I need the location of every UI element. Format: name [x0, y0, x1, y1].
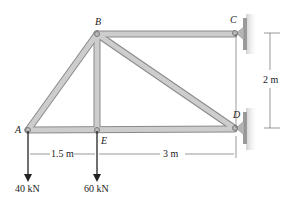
load-label-a: 40 kN: [15, 183, 40, 194]
truss-diagram: [0, 0, 289, 207]
node-label-e: E: [101, 135, 107, 146]
truss-members: [28, 34, 234, 130]
dimension-ae: 1.5 m: [51, 148, 74, 159]
dimension-lines: [30, 33, 280, 158]
load-label-e: 60 kN: [84, 183, 109, 194]
node-label-c: C: [230, 14, 237, 25]
dimension-ed: 3 m: [163, 148, 178, 159]
node-label-b: B: [95, 16, 101, 27]
node-label-d: D: [233, 109, 240, 120]
dimension-cd: 2 m: [263, 74, 278, 85]
wall-support-c: [236, 14, 258, 54]
pin-joints: [26, 31, 238, 133]
node-label-a: A: [15, 124, 21, 135]
